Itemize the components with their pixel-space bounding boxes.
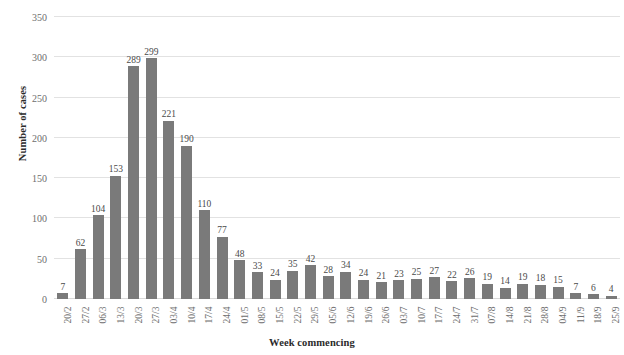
bar[interactable]: 7 xyxy=(57,293,68,299)
y-axis-title: Number of cases xyxy=(17,54,28,194)
bar-slot: 23 xyxy=(390,17,408,299)
x-tick-slot: 25/9 xyxy=(602,301,620,335)
y-axis-tick-label: 50 xyxy=(37,253,47,264)
bar-slot: 48 xyxy=(231,17,249,299)
bar-value-label: 7 xyxy=(60,283,65,293)
x-tick-slot: 05/6 xyxy=(319,301,337,335)
x-tick-slot: 27/3 xyxy=(142,301,160,335)
bar[interactable]: 48 xyxy=(234,260,245,299)
x-tick-slot: 26/6 xyxy=(372,301,390,335)
bar[interactable]: 289 xyxy=(128,66,139,299)
bar-value-label: 7 xyxy=(573,283,578,293)
bar[interactable]: 19 xyxy=(517,284,528,299)
bar-slot: 24 xyxy=(355,17,373,299)
bar-slot: 42 xyxy=(302,17,320,299)
bar[interactable]: 24 xyxy=(358,280,369,299)
x-tick-slot: 10/4 xyxy=(178,301,196,335)
bar[interactable]: 62 xyxy=(75,249,86,299)
bar[interactable]: 27 xyxy=(429,277,440,299)
bar[interactable]: 18 xyxy=(535,285,546,300)
bar-slot: 33 xyxy=(249,17,267,299)
bar-value-label: 19 xyxy=(518,273,528,283)
bar-value-label: 48 xyxy=(235,250,245,260)
bar[interactable]: 35 xyxy=(287,271,298,299)
x-tick-slot: 11/9 xyxy=(567,301,585,335)
bar-value-label: 24 xyxy=(359,269,369,279)
y-axis-tick-label: 350 xyxy=(32,12,47,23)
bar[interactable]: 190 xyxy=(181,146,192,299)
plot-area: 050100150200250300350 762104153289299221… xyxy=(54,17,620,299)
bar-value-label: 14 xyxy=(500,277,510,287)
bar-slot: 7 xyxy=(567,17,585,299)
y-axis-tick-label: 0 xyxy=(42,294,47,305)
bar[interactable]: 19 xyxy=(482,284,493,299)
bar[interactable]: 7 xyxy=(570,293,581,299)
bar-slot: 62 xyxy=(72,17,90,299)
bar-slot: 104 xyxy=(89,17,107,299)
y-axis-tick-label: 200 xyxy=(32,132,47,143)
x-tick-slot: 17/4 xyxy=(196,301,214,335)
bar-slot: 19 xyxy=(479,17,497,299)
bar-slot: 299 xyxy=(142,17,160,299)
bar[interactable]: 23 xyxy=(393,280,404,299)
bar-slot: 18 xyxy=(532,17,550,299)
x-tick-slot: 01/5 xyxy=(231,301,249,335)
bar-slot: 110 xyxy=(196,17,214,299)
x-tick-slot: 24/7 xyxy=(443,301,461,335)
bar-slot: 14 xyxy=(496,17,514,299)
bar-value-label: 62 xyxy=(76,239,86,249)
bar-value-label: 19 xyxy=(483,273,493,283)
x-tick-slot: 31/7 xyxy=(461,301,479,335)
bar-value-label: 23 xyxy=(394,270,404,280)
x-tick-slot: 03/4 xyxy=(160,301,178,335)
bar[interactable]: 110 xyxy=(199,210,210,299)
bar[interactable]: 33 xyxy=(252,272,263,299)
y-axis-tick-label: 300 xyxy=(32,52,47,63)
bar-value-label: 4 xyxy=(609,285,614,295)
bar-value-label: 42 xyxy=(306,255,316,265)
bar-slot: 27 xyxy=(425,17,443,299)
bar[interactable]: 42 xyxy=(305,265,316,299)
x-tick-slot: 21/8 xyxy=(514,301,532,335)
x-tick-slot: 22/5 xyxy=(284,301,302,335)
bar-slot: 15 xyxy=(549,17,567,299)
bar[interactable]: 26 xyxy=(464,278,475,299)
bar-slot: 289 xyxy=(125,17,143,299)
bar[interactable]: 14 xyxy=(500,288,511,299)
bar-slot: 6 xyxy=(585,17,603,299)
bar-value-label: 21 xyxy=(376,272,386,282)
bar[interactable]: 34 xyxy=(340,272,351,299)
bar-value-label: 18 xyxy=(536,274,546,284)
bar[interactable]: 221 xyxy=(163,121,174,299)
bar[interactable]: 299 xyxy=(146,58,157,299)
bar-slot: 28 xyxy=(319,17,337,299)
bar[interactable]: 24 xyxy=(270,280,281,299)
bar[interactable]: 25 xyxy=(411,279,422,299)
bar[interactable]: 22 xyxy=(446,281,457,299)
bar[interactable]: 6 xyxy=(588,294,599,299)
x-tick-slot: 18/9 xyxy=(585,301,603,335)
bar-slot: 153 xyxy=(107,17,125,299)
bar[interactable]: 15 xyxy=(553,287,564,299)
bar-value-label: 221 xyxy=(162,110,176,120)
bar[interactable]: 28 xyxy=(323,276,334,299)
x-tick-slot: 17/7 xyxy=(425,301,443,335)
bar[interactable]: 4 xyxy=(606,296,617,299)
bar[interactable]: 104 xyxy=(93,215,104,299)
bar-value-label: 190 xyxy=(180,135,194,145)
bar-slot: 35 xyxy=(284,17,302,299)
bar-series: 7621041532892992211901107748332435422834… xyxy=(54,17,620,299)
bar-value-label: 27 xyxy=(430,267,440,277)
x-tick-slot: 03/7 xyxy=(390,301,408,335)
x-tick-slot: 27/2 xyxy=(72,301,90,335)
bar[interactable]: 21 xyxy=(376,282,387,299)
x-tick-slot: 24/4 xyxy=(213,301,231,335)
bar-slot: 19 xyxy=(514,17,532,299)
bar-chart: Number of cases 050100150200250300350 76… xyxy=(0,0,624,355)
x-tick-slot: 10/7 xyxy=(408,301,426,335)
x-tick-slot: 20/2 xyxy=(54,301,72,335)
y-axis-tick-label: 100 xyxy=(32,213,47,224)
bar[interactable]: 153 xyxy=(110,176,121,299)
bar[interactable]: 77 xyxy=(217,237,228,299)
bar-value-label: 15 xyxy=(553,276,563,286)
